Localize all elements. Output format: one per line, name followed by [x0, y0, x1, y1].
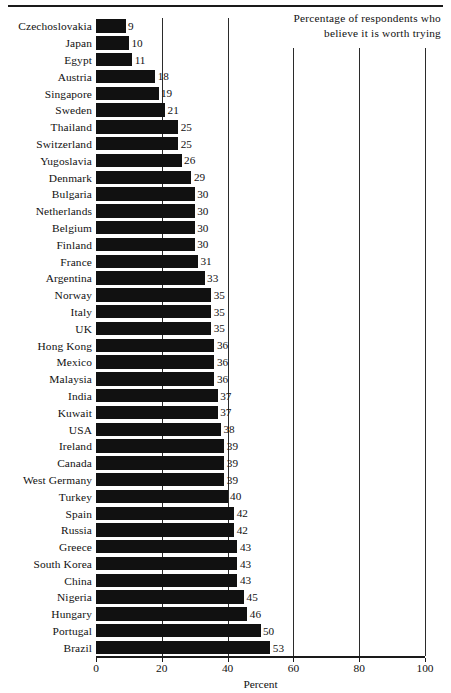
- bar-fill: [96, 372, 214, 385]
- bar-row: Italy35: [0, 304, 451, 321]
- bar-value-label: 35: [214, 289, 225, 301]
- bar-fill: [96, 19, 126, 32]
- bar-row: Austria18: [0, 68, 451, 85]
- bar: 35: [96, 322, 211, 335]
- bar-category-label: India: [68, 390, 92, 402]
- bar-category-label: Spain: [65, 508, 92, 520]
- bar: 36: [96, 339, 214, 352]
- bar-category-label: Japan: [65, 37, 92, 49]
- bar: 43: [96, 574, 237, 587]
- bar-row: Singapore19: [0, 85, 451, 102]
- bar-fill: [96, 423, 221, 436]
- bar: 39: [96, 473, 224, 486]
- bar: 25: [96, 137, 178, 150]
- bar-fill: [96, 36, 129, 49]
- bar-category-label: Turkey: [59, 491, 92, 503]
- bar-fill: [96, 70, 155, 83]
- bar-category-label: Portugal: [52, 625, 92, 637]
- bar-fill: [96, 305, 211, 318]
- bar-fill: [96, 154, 182, 167]
- x-axis-tick-80: [359, 658, 360, 662]
- bar-category-label: USA: [69, 424, 92, 436]
- bar-category-label: Mexico: [57, 356, 92, 368]
- bar-value-label: 37: [220, 390, 231, 402]
- bar-row: Argentina33: [0, 270, 451, 287]
- bar-fill: [96, 238, 195, 251]
- bar-row: Nigeria45: [0, 589, 451, 606]
- bar-fill: [96, 204, 195, 217]
- bar-fill: [96, 406, 218, 419]
- x-axis-tick-label: 40: [222, 662, 233, 674]
- bar-category-label: Denmark: [49, 172, 92, 184]
- bar-value-label: 35: [214, 306, 225, 318]
- bar-value-label: 35: [214, 322, 225, 334]
- bar-fill: [96, 456, 224, 469]
- bar-value-label: 30: [197, 222, 208, 234]
- bar-row: Spain42: [0, 505, 451, 522]
- bar-fill: [96, 473, 224, 486]
- bar: 37: [96, 389, 218, 402]
- bar-row: Switzerland25: [0, 136, 451, 153]
- bar: 9: [96, 19, 126, 32]
- bar-fill: [96, 339, 214, 352]
- bar-value-label: 30: [197, 238, 208, 250]
- bar-value-label: 36: [217, 339, 228, 351]
- bar-fill: [96, 87, 159, 100]
- bar-value-label: 46: [250, 608, 261, 620]
- bar-value-label: 39: [227, 440, 238, 452]
- bar-row: France31: [0, 253, 451, 270]
- bar-value-label: 39: [227, 457, 238, 469]
- bar: 33: [96, 271, 205, 284]
- bar-value-label: 33: [207, 272, 218, 284]
- bar: 46: [96, 607, 247, 620]
- bar-row: Norway35: [0, 287, 451, 304]
- x-axis-line: [96, 656, 425, 658]
- bar: 11: [96, 53, 132, 66]
- bar: 26: [96, 154, 182, 167]
- bar-value-label: 53: [273, 642, 284, 654]
- bar-value-label: 50: [263, 625, 274, 637]
- bar-fill: [96, 490, 228, 503]
- bar: 50: [96, 624, 261, 637]
- bar-value-label: 30: [197, 188, 208, 200]
- bar-category-label: Malaysia: [49, 373, 92, 385]
- bar-row: Kuwait37: [0, 404, 451, 421]
- bar: 53: [96, 641, 270, 654]
- bar-fill: [96, 103, 165, 116]
- bar-category-label: Belgium: [52, 222, 92, 234]
- bar-row: Hungary46: [0, 606, 451, 623]
- bar-row: China43: [0, 572, 451, 589]
- bar-category-label: West Germany: [23, 474, 92, 486]
- bar: 36: [96, 372, 214, 385]
- bar-fill: [96, 389, 218, 402]
- bar-row: Hong Kong36: [0, 337, 451, 354]
- bar-value-label: 25: [181, 138, 192, 150]
- bar: 19: [96, 87, 159, 100]
- bar-category-label: Ireland: [59, 440, 92, 452]
- bar-row: Thailand25: [0, 119, 451, 136]
- bar-fill: [96, 221, 195, 234]
- bar-fill: [96, 120, 178, 133]
- bar-value-label: 26: [184, 154, 195, 166]
- bar-category-label: Argentina: [46, 272, 92, 284]
- bar-value-label: 36: [217, 356, 228, 368]
- bar-row: Belgium30: [0, 220, 451, 237]
- bar-fill: [96, 271, 205, 284]
- bar-category-label: Norway: [55, 289, 92, 301]
- bar-row: Greece43: [0, 539, 451, 556]
- bar-category-label: France: [60, 256, 92, 268]
- bar-row: Russia42: [0, 522, 451, 539]
- bar-row: Turkey40: [0, 488, 451, 505]
- bar: 36: [96, 355, 214, 368]
- bar-value-label: 18: [158, 70, 169, 82]
- bar: 38: [96, 423, 221, 436]
- bar-row: South Korea43: [0, 556, 451, 573]
- bar-value-label: 25: [181, 121, 192, 133]
- bar-value-label: 43: [240, 541, 251, 553]
- x-axis-tick-20: [162, 658, 163, 662]
- bar-row: Denmark29: [0, 169, 451, 186]
- bar: 29: [96, 171, 191, 184]
- x-axis-tick-label: 100: [416, 662, 433, 674]
- bar-value-label: 31: [200, 255, 211, 267]
- bar-category-label: Finland: [56, 239, 92, 251]
